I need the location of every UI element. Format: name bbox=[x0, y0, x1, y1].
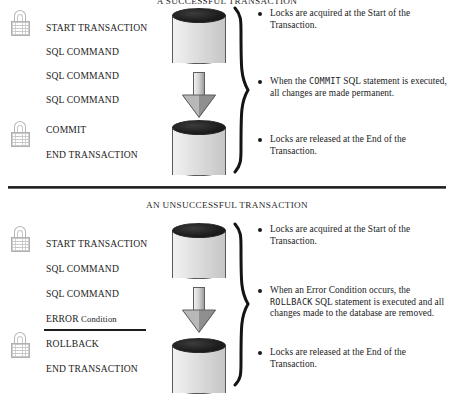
step-label-start-transaction: START TRANSACTION bbox=[46, 238, 147, 249]
bullet-dot-icon bbox=[258, 228, 262, 232]
padlock-body bbox=[11, 21, 30, 36]
cylinder-top bbox=[172, 338, 226, 353]
bullet-item: Locks are released at the End of the Tra… bbox=[258, 347, 450, 370]
bullet-item: When the COMMIT SQL statement is execute… bbox=[258, 76, 450, 99]
cylinder-top bbox=[172, 8, 226, 23]
bullet-lead: When an Error Condition occurs, the bbox=[270, 285, 410, 295]
cylinder-top bbox=[172, 120, 226, 135]
sql-keyword-rollback: ROLLBACK bbox=[270, 297, 313, 307]
padlock-body bbox=[11, 343, 30, 358]
curly-brace-icon bbox=[232, 6, 250, 174]
step-label-sql-command: SQL COMMAND bbox=[46, 94, 119, 105]
bullet-dot-icon bbox=[258, 12, 262, 16]
bullet-text: Locks are acquired at the Start of the T… bbox=[270, 224, 450, 247]
bullet-text: Locks are released at the End of the Tra… bbox=[270, 134, 450, 157]
bullet-text: Locks are released at the End of the Tra… bbox=[270, 347, 450, 370]
step-label-start-transaction: START TRANSACTION bbox=[46, 22, 147, 33]
curly-brace-icon bbox=[232, 222, 250, 387]
padlock-body bbox=[11, 132, 30, 147]
section-divider bbox=[8, 186, 446, 189]
padlock-icon bbox=[10, 332, 30, 358]
unsuccessful-section-title: AN UNSUCCESSFUL TRANSACTION bbox=[0, 200, 454, 210]
arrow-shaft bbox=[193, 287, 205, 311]
step-label-end-transaction: END TRANSACTION bbox=[46, 363, 138, 374]
error-condition-underline bbox=[44, 329, 146, 331]
padlock-icon bbox=[10, 10, 30, 36]
bullet-item: Locks are acquired at the Start of the T… bbox=[258, 224, 450, 247]
cylinder-top bbox=[172, 223, 226, 238]
step-label-sql-command: SQL COMMAND bbox=[46, 46, 119, 57]
successful-transaction-section: A SUCCESSFUL TRANSACTION START TRANSACTI… bbox=[0, 0, 454, 187]
padlock-body bbox=[11, 237, 30, 252]
bullet-lead: When the bbox=[270, 76, 309, 86]
padlock-icon bbox=[10, 121, 30, 147]
bullet-text: When an Error Condition occurs, the ROLL… bbox=[270, 285, 450, 320]
step-label-error-condition: ERROR Condition bbox=[46, 313, 117, 324]
bullet-dot-icon bbox=[258, 351, 262, 355]
step-label-commit: COMMIT bbox=[46, 124, 86, 135]
step-label-sql-command: SQL COMMAND bbox=[46, 263, 119, 274]
bullet-dot-icon bbox=[258, 289, 262, 293]
bullet-item: When an Error Condition occurs, the ROLL… bbox=[258, 285, 450, 320]
down-arrow-icon bbox=[182, 287, 216, 333]
padlock-icon bbox=[10, 226, 30, 252]
sql-keyword-commit: COMMIT bbox=[309, 76, 341, 86]
step-label-rollback: ROLLBACK bbox=[46, 338, 99, 349]
down-arrow-icon bbox=[182, 72, 216, 118]
bullet-dot-icon bbox=[258, 138, 262, 142]
error-keyword: ERROR bbox=[46, 313, 79, 324]
bullet-text: Locks are acquired at the Start of the T… bbox=[270, 8, 450, 31]
step-label-end-transaction: END TRANSACTION bbox=[46, 149, 138, 160]
step-label-sql-command: SQL COMMAND bbox=[46, 288, 119, 299]
successful-section-title: A SUCCESSFUL TRANSACTION bbox=[0, 0, 454, 6]
arrow-head-shade bbox=[199, 95, 216, 118]
bullet-item: Locks are released at the End of the Tra… bbox=[258, 134, 450, 157]
bullet-item: Locks are acquired at the Start of the T… bbox=[258, 8, 450, 31]
unsuccessful-transaction-section: AN UNSUCCESSFUL TRANSACTION START TRANSA… bbox=[0, 190, 454, 385]
error-rest: Condition bbox=[79, 314, 117, 324]
arrow-head-shade bbox=[199, 310, 216, 333]
step-label-sql-command: SQL COMMAND bbox=[46, 70, 119, 81]
bullet-dot-icon bbox=[258, 80, 262, 84]
bullet-text: When the COMMIT SQL statement is execute… bbox=[270, 76, 450, 99]
arrow-shaft bbox=[193, 72, 205, 96]
